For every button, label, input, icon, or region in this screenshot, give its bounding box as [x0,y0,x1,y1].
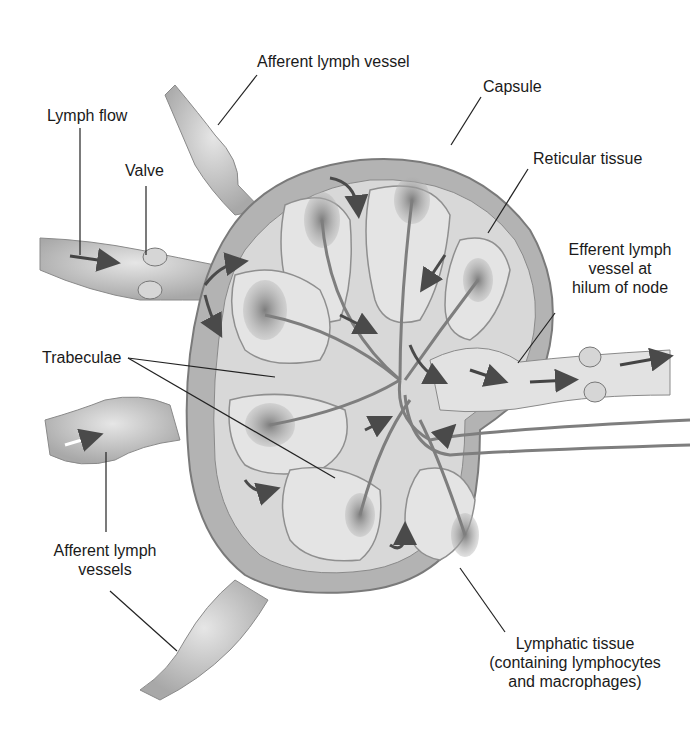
label-lymphatic-line-3: and macrophages) [480,672,670,691]
label-afferent-lymph-vessel: Afferent lymph vessel [257,52,410,71]
label-reticular-tissue: Reticular tissue [533,149,642,168]
label-afferent-vessels-line-1: Afferent lymph [40,541,170,560]
label-trabeculae: Trabeculae [42,348,121,367]
label-lymphatic-tissue: Lymphatic tissue (containing lymphocytes… [480,634,670,691]
label-lymph-flow: Lymph flow [47,106,127,125]
label-afferent-vessels-line-2: vessels [40,560,170,579]
label-afferent-lymph-vessels: Afferent lymph vessels [40,541,170,579]
afferent-vessel-top [165,85,262,215]
label-efferent-line-3: hilum of node [550,278,690,297]
label-capsule: Capsule [483,77,542,96]
label-efferent-line-1: Efferent lymph [550,240,690,259]
efferent-vessel [430,347,670,412]
afferent-vessel-left [45,397,180,464]
label-valve: Valve [125,161,164,180]
label-efferent-lymph-vessel: Efferent lymph vessel at hilum of node [550,240,690,297]
label-lymphatic-line-1: Lymphatic tissue [480,634,670,653]
label-efferent-line-2: vessel at [550,259,690,278]
label-lymphatic-line-2: (containing lymphocytes [480,653,670,672]
afferent-vessel-bottom [140,580,268,700]
